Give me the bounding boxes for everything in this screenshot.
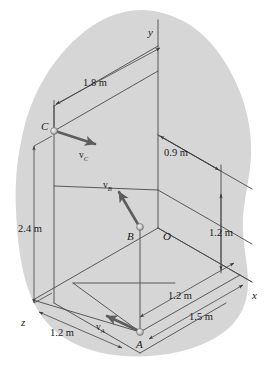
axis-label-y: y	[147, 26, 153, 38]
point-label-o: O	[163, 230, 171, 242]
dim-text-2-4m: 2.4 m	[18, 223, 42, 234]
point-label-a: A	[135, 338, 143, 350]
dim-text-1-2m-left: 1.2 m	[50, 327, 74, 338]
marker-a	[137, 329, 144, 336]
marker-b	[137, 224, 144, 231]
axis-label-x: x	[251, 289, 257, 301]
point-label-b: B	[127, 230, 134, 242]
marker-c	[51, 128, 58, 135]
dim-text-0-9m: 0.9 m	[164, 147, 188, 158]
dim-text-1-2m-mid: 1.2 m	[168, 290, 192, 301]
point-label-c: C	[41, 120, 49, 132]
dim-text-1-8m: 1.8 m	[83, 77, 107, 88]
velocity-diagram-figure: y x z 1.8 m 0.9 m	[0, 0, 271, 369]
dim-text-1-5m: 1.5 m	[189, 311, 213, 322]
axis-label-z: z	[20, 316, 26, 328]
dim-text-1-2m-right: 1.2 m	[209, 227, 233, 238]
